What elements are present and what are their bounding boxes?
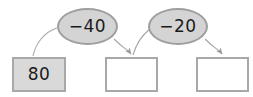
value-box-2[interactable] (105, 57, 158, 92)
value-box-3[interactable] (196, 57, 249, 92)
arrow-box1-to-op1 (33, 28, 57, 56)
arrow-op2-to-box3 (205, 39, 222, 54)
arrow-op1-to-box2 (114, 39, 131, 54)
operation-bubble-2[interactable]: −20 (148, 8, 208, 45)
operation-bubble-2-label: −20 (159, 18, 196, 35)
arrow-box2-to-op2 (133, 29, 150, 55)
operation-bubble-1-label: −40 (69, 18, 106, 35)
value-box-1-label: 80 (28, 66, 51, 83)
operation-bubble-1[interactable]: −40 (57, 8, 118, 45)
value-box-1[interactable]: 80 (12, 57, 66, 92)
arrow-diagram: 80 −40 −20 (0, 0, 253, 97)
